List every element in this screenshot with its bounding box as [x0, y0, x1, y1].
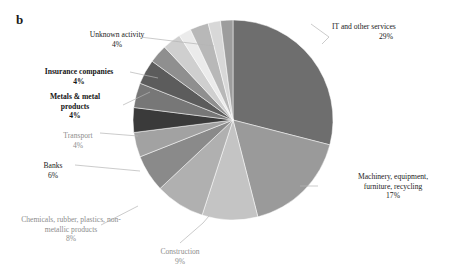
- slice-label-insurance-pct: 4%: [29, 77, 129, 86]
- slice-label-machinery-text: Machinery, equipment, furniture, recycli…: [358, 172, 428, 190]
- slice-label-transport-text: Transport: [63, 131, 92, 140]
- slice-label-chemicals: Chemicals, rubber, plastics, non- metall…: [8, 206, 134, 253]
- slice-label-construction: Construction 9%: [140, 238, 220, 264]
- leader-line-it-services: [311, 24, 329, 44]
- slice-label-chemicals-pct: 8%: [8, 234, 134, 243]
- slice-label-unknown-activity-text: Unknown activity: [90, 30, 145, 39]
- slice-label-it-services-pct: 29%: [332, 32, 440, 41]
- slice-label-machinery-pct: 17%: [320, 191, 466, 200]
- pie-slices-group: [133, 20, 333, 220]
- slice-label-chemicals-text: Chemicals, rubber, plastics, non- metall…: [21, 215, 121, 233]
- leader-line-banks: [75, 165, 140, 171]
- slice-label-it-services: IT and other services 29%: [332, 13, 460, 51]
- slice-label-unknown-activity-pct: 4%: [72, 40, 162, 49]
- slice-label-metals-pct: 4%: [32, 111, 118, 120]
- slice-label-banks-text: Banks: [44, 161, 63, 170]
- slice-label-transport-pct: 4%: [50, 141, 106, 150]
- slice-label-machinery: Machinery, equipment, furniture, recycli…: [320, 163, 466, 210]
- slice-label-construction-pct: 9%: [140, 257, 220, 264]
- slice-label-unknown-activity: Unknown activity 4%: [72, 21, 162, 59]
- pie-chart-figure: b IT and other services 29% Machinery, e…: [0, 0, 469, 264]
- slice-label-banks-pct: 6%: [26, 171, 80, 180]
- slice-label-it-services-text: IT and other services: [332, 22, 396, 31]
- slice-label-construction-text: Construction: [160, 247, 199, 256]
- slice-label-insurance: Insurance companies 4%: [29, 58, 129, 96]
- slice-label-insurance-text: Insurance companies: [45, 67, 114, 76]
